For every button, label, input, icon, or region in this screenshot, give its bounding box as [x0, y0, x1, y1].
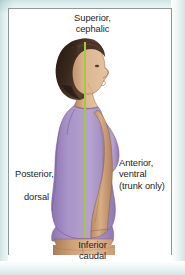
anatomy-figure-panel: Superior, cephalic Posterior, dorsal Ant… [0, 0, 185, 275]
label-superior-cephalic: Superior, cephalic [0, 13, 185, 36]
label-posterior-line1: Posterior, [15, 169, 77, 180]
label-inferior-caudal: Inferior caudal [0, 240, 185, 263]
panel-background-wash-bottom [0, 261, 185, 275]
panel-background-wash-right [171, 0, 185, 275]
human-body-lateral-illustration [8, 9, 172, 262]
label-posterior-dorsal: Posterior, dorsal [15, 158, 77, 215]
vertical-midline-axis [84, 42, 86, 238]
label-posterior-line2: dorsal [15, 192, 77, 203]
label-anterior-ventral: Anterior, ventral (trunk only) [119, 158, 181, 192]
